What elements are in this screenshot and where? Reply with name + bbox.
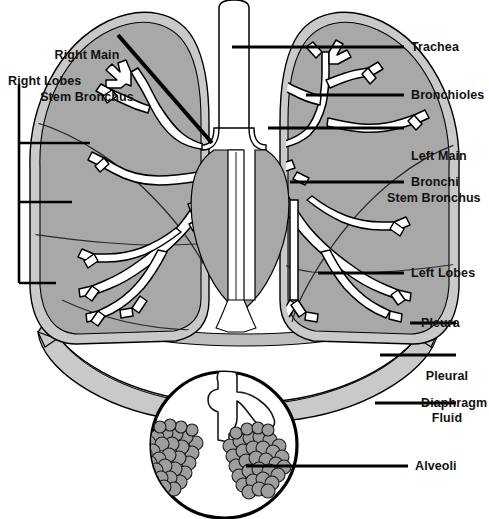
label-pleural-fluid-line2: Fluid bbox=[421, 411, 473, 425]
label-left-main-stem-bronchus-line1: Left Main bbox=[411, 149, 481, 163]
lung-anatomy-diagram: Right Main Stem Bronchus Right Lobes Tra… bbox=[0, 0, 489, 519]
label-diaphragm: Diaphragm bbox=[421, 396, 487, 410]
label-pleural-fluid-line1: Pleural bbox=[421, 369, 473, 383]
label-right-main-stem-bronchus-line1: Right Main bbox=[27, 48, 147, 62]
label-alveoli: Alveoli bbox=[415, 459, 457, 473]
label-bronchioles: Bronchioles bbox=[411, 88, 484, 102]
label-bronchi: Bronchi bbox=[411, 175, 459, 189]
label-pleura: Pleura bbox=[421, 316, 460, 330]
label-left-lobes: Left Lobes bbox=[411, 266, 475, 280]
alveoli-inset bbox=[132, 367, 297, 518]
label-trachea: Trachea bbox=[411, 40, 459, 54]
label-right-lobes: Right Lobes bbox=[8, 74, 81, 88]
label-left-main-stem-bronchus-line2: Stem Bronchus bbox=[387, 191, 481, 205]
label-right-main-stem-bronchus-line2: Stem Bronchus bbox=[27, 90, 147, 104]
